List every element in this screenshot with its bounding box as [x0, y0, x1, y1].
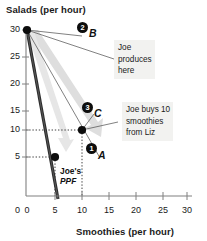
callout-produces-line3: here — [118, 65, 152, 77]
callout-joe-produces: Joe produces here — [114, 40, 155, 79]
guide-lines — [26, 130, 82, 196]
y-axis-title: Salads (per hour) — [6, 4, 86, 15]
y-tick-10: 10 — [2, 124, 20, 134]
y-tick-5: 5 — [2, 151, 20, 161]
ppf-curve-label: Joe's PPF — [60, 167, 81, 186]
callout-buys-line3: from Liz — [126, 127, 170, 139]
ppf-label-line2: PPF — [60, 177, 81, 187]
x-tick-25: 25 — [154, 205, 172, 215]
x-tick-10: 10 — [73, 205, 91, 215]
point-label-a: A — [98, 149, 106, 161]
shift-arrow-secondary — [27, 31, 74, 152]
x-tick-15: 15 — [100, 205, 118, 215]
y-tick-25: 25 — [2, 51, 20, 61]
badge-2: 2 — [77, 22, 88, 33]
callout-buys-line1: Joe buys 10 — [126, 104, 170, 116]
data-point-a — [51, 153, 59, 161]
y-tick-20: 20 — [2, 78, 20, 88]
badge-1: 1 — [86, 143, 97, 154]
callout-produces-line2: produces — [118, 54, 152, 66]
x-axis-title: Smoothies (per hour) — [76, 226, 174, 237]
x-tick-0: 0 — [18, 205, 36, 215]
callout-buys-line2: smoothies — [126, 116, 170, 128]
callout-produces-line1: Joe — [118, 42, 152, 54]
ppf-label-line1: Joe's — [60, 166, 81, 176]
point-label-b: B — [89, 27, 97, 39]
point-label-c: C — [94, 107, 102, 119]
x-tick-30: 30 — [178, 205, 196, 215]
y-tick-15: 15 — [2, 105, 20, 115]
y-tick-30: 30 — [2, 24, 20, 34]
data-point-b — [23, 26, 31, 34]
badge-3: 3 — [82, 102, 93, 113]
data-point-c — [78, 126, 86, 134]
x-tick-5: 5 — [46, 205, 64, 215]
x-tick-20: 20 — [127, 205, 145, 215]
callout-joe-buys: Joe buys 10 smoothies from Liz — [122, 102, 173, 141]
